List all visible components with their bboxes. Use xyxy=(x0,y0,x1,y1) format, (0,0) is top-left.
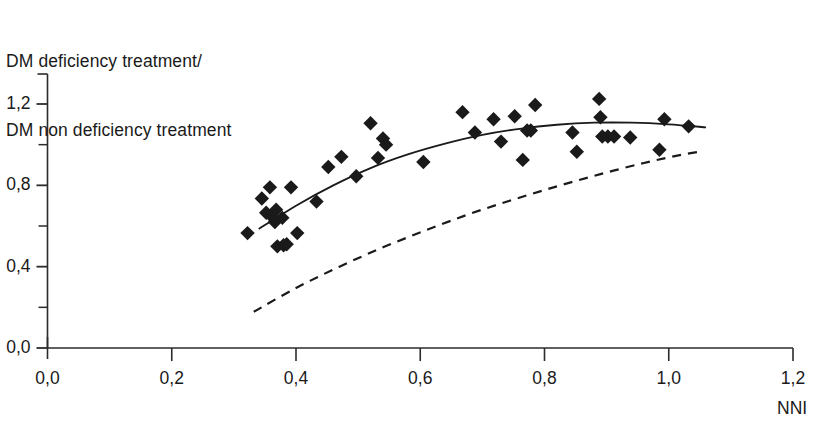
x-tick-label-6: 1,2 xyxy=(758,368,821,389)
x-tick-label-0: 0,0 xyxy=(13,368,83,389)
axes-group xyxy=(37,74,794,361)
data-point-marker xyxy=(263,180,277,194)
x-tick-label-1: 0,2 xyxy=(137,368,207,389)
data-point-marker xyxy=(570,145,584,159)
solid-fitted-curve xyxy=(259,122,706,229)
data-point-marker xyxy=(240,226,254,240)
data-point-marker xyxy=(516,153,530,167)
curves-group xyxy=(254,122,706,311)
data-point-marker xyxy=(455,105,469,119)
data-point-marker xyxy=(486,112,500,126)
data-point-marker xyxy=(592,92,606,106)
data-points-group xyxy=(240,92,695,254)
data-point-marker xyxy=(507,109,521,123)
data-point-marker xyxy=(290,226,304,240)
data-point-marker xyxy=(255,191,269,205)
data-point-marker xyxy=(284,180,298,194)
x-axis-title: NNI xyxy=(777,398,807,419)
data-point-marker xyxy=(363,116,377,130)
data-point-marker xyxy=(416,155,430,169)
data-point-marker xyxy=(334,150,348,164)
data-point-marker xyxy=(681,119,695,133)
data-point-marker xyxy=(623,130,637,144)
data-point-marker xyxy=(321,160,335,174)
chart-figure: DM deficiency treatment/ DM non deficien… xyxy=(0,0,821,427)
data-point-marker xyxy=(528,98,542,112)
y-tick-label-2: 0,8 xyxy=(0,174,31,195)
y-tick-label-3: 1,2 xyxy=(0,93,31,114)
x-tick-label-2: 0,4 xyxy=(261,368,331,389)
plot-canvas xyxy=(0,0,821,427)
data-point-marker xyxy=(565,125,579,139)
x-tick-label-4: 0,8 xyxy=(510,368,580,389)
data-point-marker xyxy=(494,134,508,148)
dashed-reference-curve xyxy=(254,151,703,312)
y-tick-label-0: 0,0 xyxy=(0,337,31,358)
x-tick-label-3: 0,6 xyxy=(385,368,455,389)
y-tick-label-1: 0,4 xyxy=(0,256,31,277)
data-point-marker xyxy=(652,143,666,157)
x-tick-label-5: 1,0 xyxy=(634,368,704,389)
